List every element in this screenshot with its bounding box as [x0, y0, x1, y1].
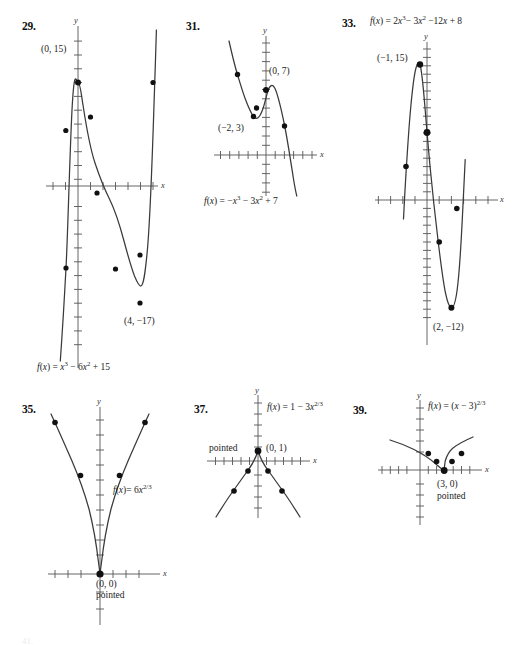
- curve-39-left: [390, 440, 444, 471]
- annotation-39-pointed: pointed: [437, 491, 466, 502]
- equation-31: f(x) = −x3 − 3x2 + 7: [204, 196, 278, 207]
- curve-37-right: [259, 452, 301, 517]
- problem-33-panel: 33. f(x) = 2x3− 3x2 −12x + 8: [330, 0, 516, 360]
- equation-39: f(x) = (x − 3)2/3: [428, 401, 485, 412]
- figure-sheet: 29.: [0, 0, 516, 645]
- x-axis-label-35: x: [163, 568, 167, 578]
- y-axis-label-31: y: [263, 25, 267, 35]
- y-axis-label-37: y: [255, 385, 259, 395]
- curve-31: [229, 41, 297, 196]
- x-axis-label-33: x: [500, 194, 504, 204]
- annotation-39-point: (3, 0): [437, 479, 458, 490]
- data-points-29: [63, 80, 155, 306]
- equation-35: f(x)= 6x2/3: [113, 485, 152, 496]
- graph-33: [330, 0, 516, 360]
- curve-35-left: [51, 414, 100, 574]
- y-axis-label-35: y: [97, 396, 101, 406]
- annotation-33-max: (−1, 15): [377, 53, 408, 64]
- x-axis-label-37: x: [313, 455, 317, 465]
- problem-39-panel: 39.: [340, 385, 516, 565]
- graph-39: [340, 385, 516, 565]
- annotation-31-min: (−2, 3): [218, 123, 244, 134]
- annotation-37-pointed: pointed: [209, 443, 238, 454]
- y-axis-label-39: y: [417, 390, 421, 400]
- annotation-35-pointed: pointed: [96, 590, 125, 601]
- curve-37-left: [216, 452, 258, 517]
- x-axis-label-29: x: [161, 180, 165, 190]
- y-axis-label-29: y: [74, 15, 78, 25]
- x-axis-label-31: x: [320, 149, 324, 159]
- problem-31-panel: 31.: [180, 0, 330, 230]
- page-bottom-cutoff: 41.: [0, 635, 516, 645]
- annotation-37-point: (0, 1): [266, 443, 287, 454]
- y-axis-label-33: y: [424, 31, 428, 41]
- annotation-29-min: (4, −17): [124, 316, 155, 327]
- annotation-31-max: (0, 7): [269, 66, 290, 77]
- curve-33: [404, 63, 466, 308]
- curve-29: [60, 30, 156, 361]
- x-axis-label-39: x: [485, 464, 489, 474]
- problem-37-panel: 37.: [190, 385, 355, 565]
- annotation-29-max: (0, 15): [41, 44, 66, 55]
- annotation-35-origin: (0, 0): [96, 579, 117, 590]
- annotation-33-min: (2, −12): [433, 322, 464, 333]
- curve-39-right: [444, 437, 473, 471]
- equation-37: f(x) = 1 − 3x2/3: [267, 402, 323, 413]
- cutoff-text: 41.: [22, 636, 33, 645]
- equation-29: f(x) = x3 − 6x2 + 15: [37, 362, 110, 373]
- problem-29-panel: 29.: [0, 0, 180, 380]
- problem-35-panel: 35.: [0, 385, 200, 645]
